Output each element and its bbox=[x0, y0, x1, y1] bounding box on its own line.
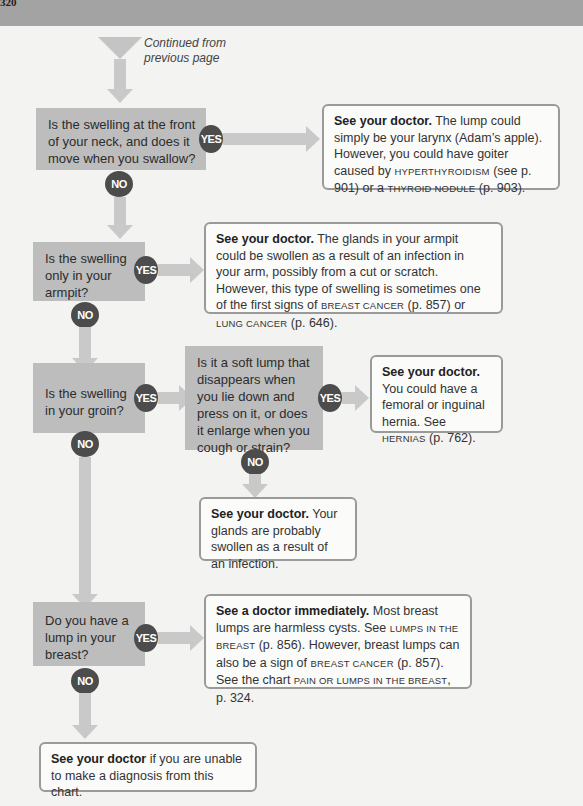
question-box-groin: Is the swelling in your groin? bbox=[33, 363, 145, 433]
flow-arrow-shaft bbox=[158, 264, 192, 276]
answer-text: (p. 646). bbox=[287, 316, 337, 330]
question-text: Is the swelling only in your armpit? bbox=[45, 251, 127, 300]
cross-reference: PAIN OR LUMPS IN THE BREAST bbox=[294, 675, 447, 686]
question-text: Is the swelling at the front of your nec… bbox=[48, 117, 195, 166]
no-badge: NO bbox=[71, 302, 99, 328]
page-number: 320 bbox=[0, 0, 17, 8]
yes-badge: YES bbox=[134, 256, 158, 284]
cross-reference: BREAST CANCER bbox=[311, 658, 394, 669]
cross-reference: THYROID NODULE bbox=[388, 183, 476, 194]
flow-arrow-shaft bbox=[79, 327, 91, 360]
flow-arrow-shaft bbox=[114, 197, 126, 225]
start-arrow-icon bbox=[98, 37, 142, 59]
flow-arrow-shaft bbox=[158, 632, 192, 644]
page-header-band bbox=[0, 0, 583, 26]
flow-arrow-head-icon bbox=[72, 725, 98, 739]
flow-arrow-head-icon bbox=[107, 89, 133, 103]
answer-lead: See your doctor bbox=[51, 752, 146, 766]
answer-box-breast: See a doctor immediately. Most breast lu… bbox=[204, 594, 472, 689]
answer-lead: See your doctor. bbox=[211, 507, 309, 521]
answer-box-armpit: See your doctor. The glands in your armp… bbox=[204, 222, 503, 314]
flow-arrow-head-icon bbox=[190, 257, 204, 283]
yes-badge: YES bbox=[199, 125, 223, 153]
answer-text: You could have a femoral or inguinal her… bbox=[382, 382, 485, 429]
answer-text: (p. 903). bbox=[475, 181, 525, 195]
question-box-breast: Do you have a lump in your breast? bbox=[33, 602, 145, 666]
question-box-armpit: Is the swelling only in your armpit? bbox=[33, 242, 145, 301]
question-box-neck: Is the swelling at the front of your nec… bbox=[36, 108, 206, 170]
answer-lead: See your doctor. bbox=[382, 365, 480, 379]
yes-badge: YES bbox=[318, 384, 342, 412]
flow-arrow-shaft bbox=[342, 392, 356, 404]
flow-arrow-shaft bbox=[79, 457, 91, 595]
answer-text: (p. 762). bbox=[426, 431, 476, 445]
answer-lead: See your doctor. bbox=[334, 114, 432, 128]
answer-box-infection: See your doctor. Your glands are probabl… bbox=[199, 497, 357, 561]
answer-box-final: See your doctor if you are unable to mak… bbox=[39, 742, 257, 792]
flow-arrow-head-icon bbox=[242, 484, 268, 498]
flow-arrow-head-icon bbox=[107, 225, 133, 239]
no-badge: NO bbox=[105, 171, 133, 197]
no-badge: NO bbox=[71, 668, 99, 694]
cross-reference: HERNIAS bbox=[382, 433, 426, 444]
flow-arrow-shaft bbox=[79, 693, 91, 725]
no-badge: NO bbox=[71, 431, 99, 457]
yes-badge: YES bbox=[134, 624, 158, 652]
answer-lead: See your doctor. bbox=[216, 232, 314, 246]
flow-arrow-head-icon bbox=[355, 385, 369, 411]
answer-text: (p. 857) or bbox=[404, 298, 465, 312]
question-box-soft-lump: Is it a soft lump that disappears when y… bbox=[185, 346, 323, 450]
answer-lead: See a doctor immediately. bbox=[216, 604, 369, 618]
flow-arrow-shaft bbox=[158, 392, 180, 404]
flow-arrow-shaft bbox=[223, 133, 306, 145]
cross-reference: HYPERTHYROIDISM bbox=[394, 166, 489, 177]
question-text: Do you have a lump in your breast? bbox=[45, 613, 129, 662]
no-badge: NO bbox=[241, 449, 269, 475]
yes-badge: YES bbox=[134, 384, 158, 412]
flow-arrow-head-icon bbox=[190, 625, 204, 651]
question-text: Is the swelling in your groin? bbox=[45, 386, 127, 418]
answer-box-neck: See your doctor. The lump could simply b… bbox=[322, 104, 560, 190]
answer-box-hernia: See your doctor. You could have a femora… bbox=[370, 355, 503, 433]
cross-reference: BREAST CANCER bbox=[321, 300, 404, 311]
cross-reference: LUNG CANCER bbox=[216, 318, 287, 329]
question-text: Is it a soft lump that disappears when y… bbox=[197, 355, 310, 455]
flow-arrow-shaft bbox=[114, 59, 126, 89]
continued-note: Continued from previous page bbox=[144, 36, 254, 66]
flow-arrow-head-icon bbox=[306, 126, 320, 152]
